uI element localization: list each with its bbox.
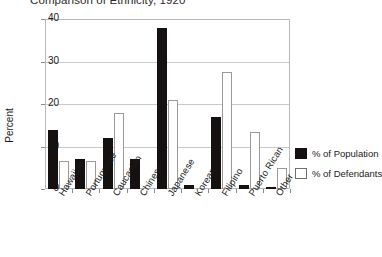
y-tick-mark xyxy=(41,189,45,190)
bar-group xyxy=(47,19,70,189)
bar-population xyxy=(48,130,58,190)
legend-label-defendants: % of Defendants xyxy=(312,168,382,179)
legend-swatch-defendants xyxy=(295,168,307,179)
legend-item-population: % of Population xyxy=(295,148,373,159)
chart-legend: % of Population % of Defendants xyxy=(295,148,373,188)
y-axis-label: Percent xyxy=(4,96,15,156)
bar-group xyxy=(210,19,233,189)
x-tick-mark xyxy=(290,189,291,193)
legend-swatch-population xyxy=(295,148,307,159)
x-axis-labels: HawaiianPortugueseCaucasianChineseJapane… xyxy=(45,192,290,257)
bar-group xyxy=(238,19,261,189)
chart-title: Comparison of Ethnicity, 1920 xyxy=(30,0,185,6)
legend-label-population: % of Population xyxy=(312,148,379,159)
legend-item-defendants: % of Defendants xyxy=(295,168,373,179)
